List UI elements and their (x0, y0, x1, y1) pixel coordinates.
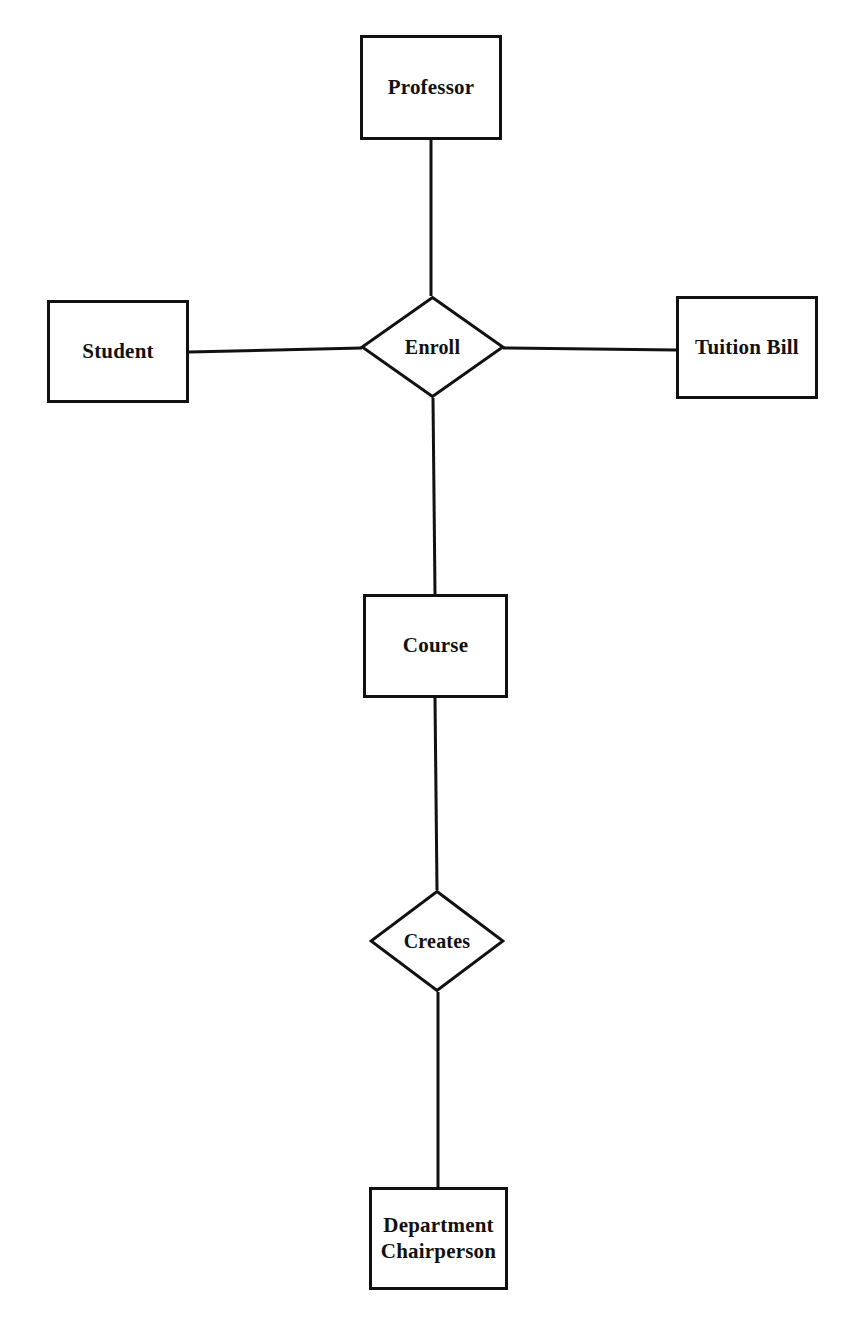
entity-course[interactable]: Course (363, 594, 508, 698)
edge-student-enroll (189, 348, 362, 352)
entity-student[interactable]: Student (47, 300, 189, 403)
entity-department-chairperson-label: Department Chairperson (381, 1213, 496, 1264)
entity-tuition-bill[interactable]: Tuition Bill (676, 296, 818, 399)
edge-course-creates (435, 698, 437, 890)
entity-student-label: Student (82, 339, 153, 365)
edge-enroll-course (433, 398, 435, 594)
edge-enroll-tuition-bill (503, 348, 676, 350)
entity-department-chairperson[interactable]: Department Chairperson (369, 1187, 508, 1290)
entity-course-label: Course (403, 633, 468, 659)
entity-tuition-bill-label: Tuition Bill (695, 335, 799, 361)
relationship-enroll[interactable]: Enroll (360, 296, 505, 398)
entity-professor[interactable]: Professor (360, 35, 502, 140)
entity-professor-label: Professor (388, 75, 475, 101)
relationship-creates[interactable]: Creates (369, 890, 505, 992)
er-diagram-canvas: Professor Student Tuition Bill Course De… (0, 0, 861, 1327)
relationship-enroll-label: Enroll (405, 335, 460, 359)
relationship-creates-label: Creates (404, 929, 471, 953)
